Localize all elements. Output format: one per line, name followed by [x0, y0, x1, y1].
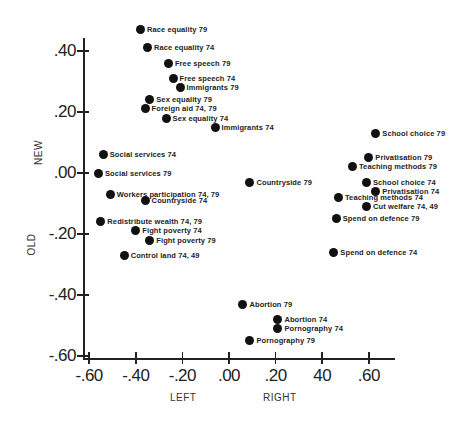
data-point: Fight poverty 79	[145, 236, 216, 245]
point-label: Social services 79	[105, 169, 171, 178]
data-point: Pornography 79	[245, 336, 315, 345]
x-tick-label: 40	[297, 366, 347, 386]
point-marker-icon	[94, 169, 103, 178]
x-tick	[321, 352, 323, 364]
point-label: School choice 79	[382, 129, 445, 138]
data-point: Redistribute wealth 74, 79	[96, 217, 202, 226]
data-point: Cut welfare 74, 49	[362, 202, 438, 211]
y-axis-line	[83, 38, 85, 359]
y-tick-label: .20	[32, 102, 76, 122]
point-marker-icon	[211, 123, 220, 132]
data-point: Abortion 79	[238, 300, 292, 309]
data-point: Immigrants 79	[176, 83, 239, 92]
point-marker-icon	[169, 74, 178, 83]
data-point: Sex equality 79	[145, 95, 212, 104]
data-point: School choice 79	[371, 129, 445, 138]
x-tick	[228, 352, 230, 364]
point-marker-icon	[364, 153, 373, 162]
point-label: Sex equality 79	[156, 95, 212, 104]
data-point: Abortion 74	[273, 315, 327, 324]
point-marker-icon	[273, 315, 282, 324]
x-tick	[135, 352, 137, 364]
point-marker-icon	[145, 236, 154, 245]
y-tick	[77, 172, 89, 174]
point-marker-icon	[145, 95, 154, 104]
y-tick	[77, 50, 89, 52]
x-tick	[368, 352, 370, 364]
y-tick	[77, 355, 89, 357]
point-label: Immigrants 79	[187, 83, 239, 92]
data-point: Privatisation 79	[364, 153, 432, 162]
data-point: Fight poverty 74	[131, 226, 202, 235]
data-point: Countryside 79	[245, 178, 312, 187]
point-marker-icon	[162, 114, 171, 123]
x-tick-label: .20	[251, 366, 301, 386]
point-label: Cut welfare 74, 49	[373, 202, 438, 211]
data-point: Social services 79	[94, 169, 171, 178]
y-axis-label-old: OLD	[26, 233, 37, 255]
y-tick-label: -.40	[32, 285, 76, 305]
data-point: Free speech 74	[169, 74, 236, 83]
point-marker-icon	[120, 251, 129, 260]
y-tick	[77, 233, 89, 235]
data-point: Countryside 74	[141, 196, 208, 205]
y-axis-label-new: NEW	[33, 140, 44, 165]
point-label: Privatisation 79	[375, 153, 432, 162]
point-label: Pornography 74	[284, 324, 343, 333]
point-marker-icon	[348, 162, 357, 171]
x-axis-line	[83, 358, 395, 360]
point-label: Sex equality 74	[173, 114, 229, 123]
x-tick-label: -.40	[111, 366, 161, 386]
data-point: Teaching methods 74	[334, 193, 423, 202]
x-axis-label-right: RIGHT	[263, 392, 297, 403]
data-point: Pornography 74	[273, 324, 343, 333]
point-marker-icon	[371, 129, 380, 138]
data-point: School choice 74	[362, 178, 436, 187]
x-tick	[275, 352, 277, 364]
point-marker-icon	[362, 202, 371, 211]
x-tick-label: .60	[344, 366, 394, 386]
data-point: Sex equality 74	[162, 114, 229, 123]
x-tick-label: -.20	[157, 366, 207, 386]
data-point: Race equality 74	[143, 43, 214, 52]
data-point: Teaching methods 79	[348, 162, 437, 171]
point-marker-icon	[245, 336, 254, 345]
point-label: Countryside 79	[256, 178, 312, 187]
point-label: Social services 74	[110, 150, 176, 159]
x-axis-label-left: LEFT	[170, 392, 196, 403]
y-tick-label: .40	[32, 41, 76, 61]
y-tick	[77, 294, 89, 296]
data-point: Control land 74, 49	[120, 251, 200, 260]
point-marker-icon	[141, 196, 150, 205]
point-marker-icon	[245, 178, 254, 187]
y-tick-label: -.60	[32, 346, 76, 366]
scatter-chart: .40.20.00-.20-.40-.60 -.60-.40-.20.00.20…	[0, 0, 455, 423]
point-marker-icon	[131, 226, 140, 235]
point-label: Free speech 74	[180, 74, 236, 83]
data-point: Foreign aid 74, 79	[141, 104, 217, 113]
point-label: Teaching methods 79	[359, 162, 437, 171]
point-label: Countryside 74	[152, 196, 208, 205]
y-tick-label: -.20	[32, 224, 76, 244]
point-label: Spend on defence 79	[343, 214, 420, 223]
point-marker-icon	[96, 217, 105, 226]
point-marker-icon	[334, 193, 343, 202]
point-marker-icon	[141, 104, 150, 113]
point-marker-icon	[136, 25, 145, 34]
data-point: Spend on defence 74	[329, 248, 417, 257]
point-marker-icon	[273, 324, 282, 333]
x-tick-label: -.60	[64, 366, 114, 386]
point-label: Race equality 79	[147, 25, 207, 34]
point-label: Fight poverty 79	[156, 236, 216, 245]
point-label: Foreign aid 74, 79	[152, 104, 217, 113]
data-point: Race equality 79	[136, 25, 207, 34]
point-marker-icon	[329, 248, 338, 257]
point-label: Immigrants 74	[222, 123, 274, 132]
point-label: Redistribute wealth 74, 79	[107, 217, 202, 226]
point-label: Free speech 79	[175, 59, 231, 68]
x-tick	[182, 352, 184, 364]
point-label: Race equality 74	[154, 43, 214, 52]
point-marker-icon	[143, 43, 152, 52]
point-label: Fight poverty 74	[142, 226, 202, 235]
x-tick-label: .00	[204, 366, 254, 386]
